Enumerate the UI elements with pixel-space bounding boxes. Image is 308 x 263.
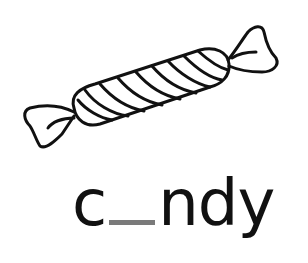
fill-in-word: cndy — [72, 168, 274, 238]
missing-letter-blank[interactable] — [109, 220, 155, 225]
candy-icon — [0, 0, 308, 160]
word-prefix: c — [72, 168, 106, 238]
word-suffix: ndy — [158, 168, 274, 238]
